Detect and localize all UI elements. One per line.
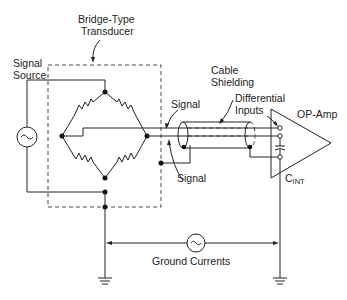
differential-inputs-label: Differential Inputs xyxy=(235,92,285,116)
signal-source-label: Signal Source xyxy=(13,57,46,81)
label-signal: Signal xyxy=(13,57,46,69)
ground-symbol-right xyxy=(273,278,287,284)
op-amp xyxy=(271,109,331,278)
ground-currents-label: Ground Currents xyxy=(152,255,230,267)
label-bridge-type: Bridge-Type xyxy=(78,13,135,25)
label-differential: Differential xyxy=(235,92,285,104)
label-cable: Cable xyxy=(211,64,254,76)
cint-sub: INT xyxy=(293,177,305,186)
label-transducer: Transducer xyxy=(78,25,135,37)
cint-main: C xyxy=(285,172,293,184)
cint-label: CINT xyxy=(285,172,305,188)
ground-symbol-left xyxy=(98,278,112,284)
transducer-label: Bridge-Type Transducer xyxy=(78,13,135,37)
signal-top-label: Signal xyxy=(171,98,200,110)
opamp-label: OP-Amp xyxy=(297,108,337,120)
signal-bottom-label: Signal xyxy=(177,172,206,184)
label-shielding: Shielding xyxy=(211,76,254,88)
label-inputs: Inputs xyxy=(235,104,285,116)
cable-shield xyxy=(178,122,280,157)
cable-shielding-label: Cable Shielding xyxy=(211,64,254,88)
label-source: Source xyxy=(13,69,46,81)
